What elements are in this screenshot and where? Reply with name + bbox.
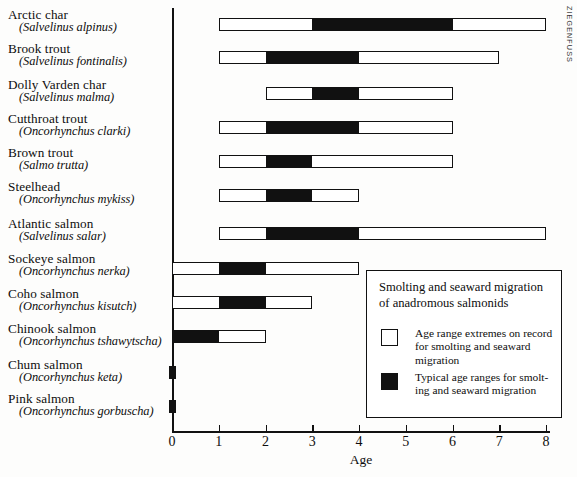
x-axis-tick — [312, 425, 313, 432]
x-axis-tick — [359, 425, 360, 432]
x-axis-tick-label: 0 — [159, 434, 185, 450]
legend-entry-text: Age range extremes on record for smoltin… — [415, 327, 553, 367]
bar-typical-range — [266, 155, 313, 168]
bar-extreme-range — [219, 51, 500, 64]
bar-typical-range — [266, 227, 360, 240]
bar-extreme-range — [219, 155, 453, 168]
legend-title: Smolting and seaward migration of anadro… — [379, 280, 555, 311]
x-axis-tick-label: 1 — [206, 434, 232, 450]
bar-typical-range — [312, 18, 452, 31]
x-axis-title: Age — [172, 452, 550, 468]
legend-entry: Typical age ranges for smolt-ing and sea… — [381, 371, 553, 398]
bar-typical-range — [266, 51, 360, 64]
x-axis-line — [172, 431, 550, 433]
x-axis-tick-label: 6 — [440, 434, 466, 450]
x-axis-tick — [266, 425, 267, 432]
x-axis-tick — [546, 425, 547, 432]
x-axis-tick — [219, 425, 220, 432]
legend-swatch-open-icon — [381, 329, 398, 346]
legend-entry-text: Typical age ranges for smolt-ing and sea… — [415, 371, 553, 398]
legend-entry: Age range extremes on record for smoltin… — [381, 327, 553, 367]
legend-title-line-1: Smolting and seaward migration — [379, 280, 543, 294]
x-axis-tick-label: 8 — [533, 434, 559, 450]
bar-typical-range — [266, 121, 360, 134]
legend-title-line-2: of anadromous salmonids — [379, 296, 508, 310]
x-axis-tick-label: 5 — [393, 434, 419, 450]
bar-range-marker — [169, 400, 176, 413]
legend-box: Smolting and seaward migration of anadro… — [366, 270, 562, 418]
bar-typical-range — [312, 87, 359, 100]
legend-swatch-filled-icon — [381, 373, 398, 390]
x-axis-tick-label: 2 — [253, 434, 279, 450]
illustrator-credit: ZIEGENFUSS — [565, 6, 574, 63]
bar-typical-range — [172, 330, 219, 343]
x-axis-tick-label: 3 — [299, 434, 325, 450]
x-axis-tick — [499, 425, 500, 432]
bar-typical-range — [266, 189, 313, 202]
bar-extreme-range — [266, 87, 453, 100]
bar-range-marker — [169, 366, 176, 379]
salmonid-smolting-chart: Arctic char(Salvelinus alpinus)Brook tro… — [0, 0, 577, 477]
x-axis-tick — [453, 425, 454, 432]
x-axis-tick-label: 7 — [486, 434, 512, 450]
x-axis-tick-label: 4 — [346, 434, 372, 450]
x-axis-tick — [406, 425, 407, 432]
bar-extreme-range — [172, 262, 359, 275]
x-axis-tick — [172, 425, 173, 432]
bar-typical-range — [219, 262, 266, 275]
bar-typical-range — [219, 296, 266, 309]
